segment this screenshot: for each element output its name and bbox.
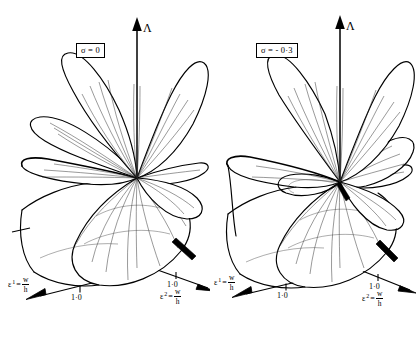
left-surface-upper-right-lobe (137, 62, 208, 178)
right-lambda-label: Λ (346, 20, 355, 32)
right-eps1-label: ε 1 = w h (214, 274, 235, 291)
right-eps1-tick-label: 1·0 (277, 292, 288, 300)
left-lambda-label: Λ (143, 22, 152, 34)
left-condition-badge: σ = 0 (76, 40, 105, 56)
panel-sigma-neg03: σ = - 0·3 Λ ε 1 = w h 1·0 ε 2 = w h 1·0 (210, 0, 420, 345)
left-eps1-equals: = (16, 281, 21, 289)
right-eps2-sup: 2 (366, 293, 369, 299)
right-lambda-arrowhead (335, 15, 345, 29)
right-condition-badge: σ = - 0·3 (256, 40, 298, 56)
right-eps1-symbol: ε (214, 279, 217, 287)
right-eps1-sup: 1 (218, 277, 221, 283)
right-eps1-equals: = (222, 279, 227, 287)
left-eps2-label: ε 2 = w h (160, 288, 181, 305)
left-eps1-fraction: w h (22, 276, 29, 293)
left-eps2-equals: = (168, 293, 173, 301)
left-eps2-fraction: w h (174, 288, 181, 305)
right-eps1-fraction: w h (228, 274, 235, 291)
left-eps1-sup: 1 (12, 279, 15, 285)
right-eps2-tick-label: 1·0 (369, 283, 380, 291)
right-eps2-fraction: w h (376, 290, 383, 307)
right-panel-plot (210, 0, 420, 345)
left-eps1-label: ε 1 = w h (8, 276, 29, 293)
left-eps2-symbol: ε (160, 293, 163, 301)
left-eps2-sup: 2 (164, 291, 167, 297)
left-eps1-symbol: ε (8, 281, 11, 289)
right-axis-arrow-eps2 (398, 286, 416, 293)
left-lambda-arrowhead (132, 17, 142, 31)
right-eps2-equals: = (370, 295, 375, 303)
right-eps2-label: ε 2 = w h (362, 290, 383, 307)
panel-sigma-0: σ = 0 Λ ε 1 = w h 1·0 ε 2 = w h 1·0 (0, 0, 210, 345)
right-eps2-symbol: ε (362, 295, 365, 303)
left-eps1-tick-label: 1·0 (71, 294, 82, 302)
figure-canvas: σ = 0 Λ ε 1 = w h 1·0 ε 2 = w h 1·0 (0, 0, 420, 345)
left-eps2-tick-label: 1·0 (167, 281, 178, 289)
